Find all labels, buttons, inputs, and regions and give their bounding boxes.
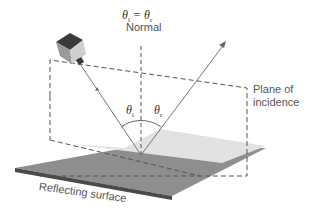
normal-label: Normal <box>126 21 161 33</box>
angle-reflected-label: θr <box>154 103 162 119</box>
plane-of-incidence-label: Plane of incidence <box>253 83 299 109</box>
light-source-icon <box>56 33 86 65</box>
angle-incident-label: θi <box>126 103 134 119</box>
